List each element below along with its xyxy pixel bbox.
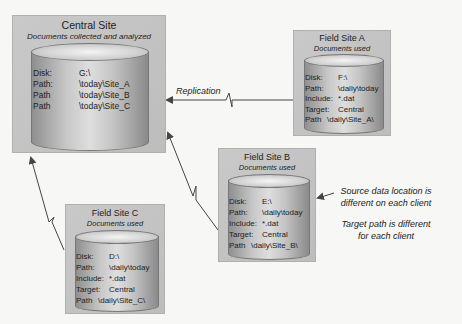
field-site-a-title: Field Site A <box>294 33 390 43</box>
field-site-c-box: Field Site C Documents used Disk:D:\ Pat… <box>65 204 165 314</box>
field-site-a-box: Field Site A Documents used Disk:F:\ Pat… <box>293 30 391 136</box>
field-site-a-properties: Disk:F:\ Path:\daily\today Include:*.dat… <box>305 73 378 126</box>
field-site-b-subtitle: Documents used <box>219 163 315 172</box>
field-site-c-title: Field Site C <box>66 208 164 218</box>
site-b-arrow <box>168 133 218 230</box>
source-location-note: Source data location is different on eac… <box>334 185 438 209</box>
field-site-a-subtitle: Documents used <box>294 44 390 53</box>
field-site-b-box: Field Site B Documents used Disk:E:\ Pat… <box>218 148 316 262</box>
central-site-properties: Disk:G:\ Path:\today\Site_A Path\today\S… <box>33 68 130 112</box>
field-site-c-subtitle: Documents used <box>66 219 164 228</box>
target-path-note: Target path is different for each client <box>334 218 438 242</box>
central-site-box: Central Site Documents collected and ana… <box>12 15 166 153</box>
field-site-b-title: Field Site B <box>219 152 315 162</box>
note-arrow <box>318 193 334 198</box>
replication-label: Replication <box>176 86 221 96</box>
central-site-title: Central Site <box>13 19 165 31</box>
central-site-subtitle: Documents collected and analyzed <box>13 32 165 41</box>
field-site-b-properties: Disk:E:\ Path:\daily\today Include:*.dat… <box>229 196 302 251</box>
site-c-arrow <box>31 158 64 250</box>
field-site-c-properties: Disk:D:\ Path:\daily\today Include:*.dat… <box>76 251 149 306</box>
